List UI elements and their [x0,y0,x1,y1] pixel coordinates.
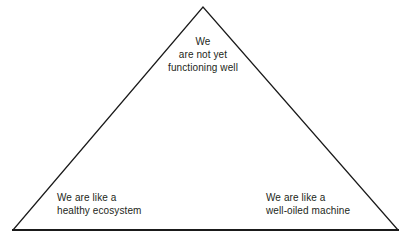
apex-label: We are not yet functioning well [143,35,263,74]
bottom-right-label-line-1: We are like a [266,191,350,204]
bottom-right-label: We are like a well-oiled machine [266,191,350,217]
apex-label-line-3: functioning well [143,61,263,74]
diagram-canvas: We are not yet functioning well We are l… [0,0,411,246]
bottom-left-label-line-1: We are like a [57,191,142,204]
bottom-left-label-line-2: healthy ecosystem [57,204,142,217]
bottom-left-label: We are like a healthy ecosystem [57,191,142,217]
apex-label-line-2: are not yet [143,48,263,61]
apex-label-line-1: We [143,35,263,48]
bottom-right-label-line-2: well-oiled machine [266,204,350,217]
